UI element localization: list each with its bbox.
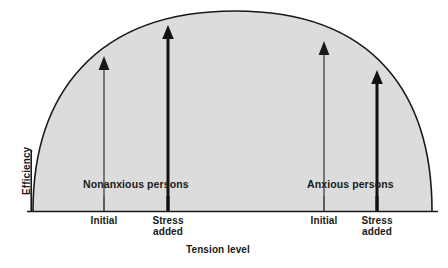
group-label-anxious: Anxious persons [307,179,394,190]
tick-label-line1: Stress [361,215,392,226]
tick-label-nonanxious-initial: Initial [80,216,128,227]
group-label-nonanxious: Nonanxious persons [83,179,189,190]
tick-label-line2: added [362,226,392,237]
y-axis-label: Efficiency [22,147,33,195]
x-axis-label: Tension level [186,245,250,256]
tick-label-anxious-stress: Stress added [353,216,401,238]
tick-label-nonanxious-stress: Stress added [144,216,192,238]
figure-container: Efficiency Tension level Nonanxious pers… [0,0,448,268]
tick-label-line1: Stress [152,215,183,226]
tick-label-anxious-initial: Initial [300,216,348,227]
tick-label-line2: added [153,226,183,237]
